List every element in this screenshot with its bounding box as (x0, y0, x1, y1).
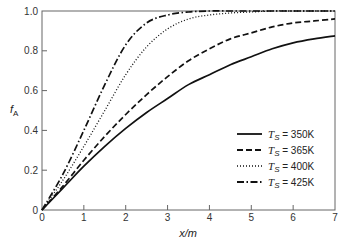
legend-label-3: TS = 400K (268, 160, 315, 174)
axes: 0123456700.20.40.60.81.0 (24, 6, 338, 224)
legend-label-2: TS = 365K (268, 144, 315, 158)
x-axis-label: x/m (178, 227, 197, 239)
legend-label-1: TS = 350K (268, 128, 315, 142)
y-tick-label: 0 (32, 205, 38, 216)
y-tick-label: 0.4 (24, 125, 38, 136)
legend: TS = 350KTS = 365KTS = 400KTS = 425K (237, 128, 315, 190)
x-tick-label: 4 (207, 212, 213, 223)
y-axis-label: fA (10, 103, 19, 118)
x-tick-label: 3 (165, 212, 171, 223)
chart: 0123456700.20.40.60.81.0 TS = 350KTS = 3… (0, 0, 345, 243)
y-tick-label: 0.2 (24, 165, 38, 176)
x-tick-label: 6 (290, 212, 296, 223)
x-tick-label: 7 (332, 212, 338, 223)
x-tick-label: 5 (249, 212, 255, 223)
y-tick-label: 1.0 (24, 6, 38, 17)
y-tick-label: 0.8 (24, 45, 38, 56)
y-tick-label: 0.6 (24, 85, 38, 96)
legend-label-4: TS = 425K (268, 176, 315, 190)
x-tick-label: 1 (81, 212, 87, 223)
x-tick-label: 2 (123, 212, 129, 223)
x-tick-label: 0 (39, 212, 45, 223)
